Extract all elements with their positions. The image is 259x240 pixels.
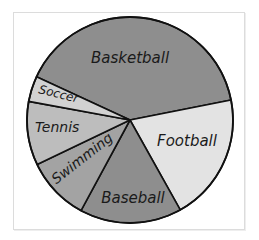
slice-label-basketball: Basketball	[91, 49, 170, 67]
slice-label-tennis: Tennis	[35, 119, 79, 135]
slice-label-baseball: Baseball	[101, 189, 165, 207]
pie-chart: Basketball Football Baseball Swimming Te…	[0, 0, 259, 240]
slice-label-football: Football	[157, 132, 218, 150]
